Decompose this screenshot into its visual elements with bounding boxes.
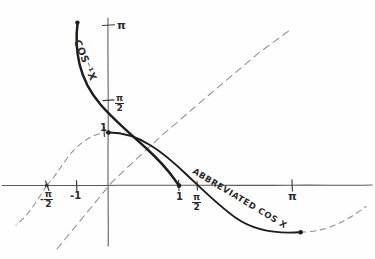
fraction-denominator: 2 xyxy=(115,104,124,113)
label-x-axis-one-text: 1 xyxy=(176,191,183,202)
label-y-axis-one-text: 1 xyxy=(100,122,107,133)
tick-y-pi xyxy=(103,25,115,26)
axes-group xyxy=(2,18,372,246)
label-x-axis-pi-over-2: π 2 xyxy=(192,193,201,211)
x-axis xyxy=(2,185,372,186)
label-x-axis-one: 1 xyxy=(176,191,183,202)
arccos-path xyxy=(77,24,179,186)
label-x-axis-neg-pi-over-2: - π 2 xyxy=(40,190,53,208)
tick-y-pi-over-2 xyxy=(103,100,114,101)
dashed-cos-right-tail xyxy=(301,207,367,233)
curve-arccos xyxy=(75,20,181,188)
label-x-axis-neg-one-text: -1 xyxy=(70,190,81,201)
label-x-axis-neg-one: -1 xyxy=(70,190,81,201)
figure-canvas: COS⁻¹X ABBREVIATED COS X π π 2 1 - π 2 -… xyxy=(0,0,375,259)
label-x-axis-pi: π xyxy=(288,190,297,203)
arccos-endpoint-top-dot xyxy=(75,20,79,24)
label-x-axis-pi-text: π xyxy=(288,190,297,203)
graph-svg xyxy=(0,0,375,259)
label-y-axis-pi-text: π xyxy=(117,19,126,32)
fraction-denominator: 2 xyxy=(192,203,201,212)
arccos-endpoint-bottom-dot xyxy=(177,183,182,188)
fraction-pi-over-2-x-neg: π 2 xyxy=(44,190,53,208)
dashed-cos-axis-crossing-dot xyxy=(45,184,49,188)
label-y-axis-pi: π xyxy=(117,19,126,32)
dashed-cos-left-arc xyxy=(47,133,109,186)
label-y-axis-one: 1 xyxy=(100,122,107,133)
fraction-pi-over-2-y: π 2 xyxy=(115,94,124,112)
abbreviated-cos-endpoint-right-dot xyxy=(298,230,303,235)
label-y-axis-pi-over-2: π 2 xyxy=(115,94,124,112)
fraction-pi-over-2-x: π 2 xyxy=(192,193,201,211)
fraction-denominator: 2 xyxy=(44,200,53,209)
dashed-cosine-wave xyxy=(16,133,366,232)
